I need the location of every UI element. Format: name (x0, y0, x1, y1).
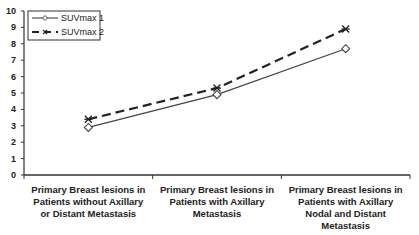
y-tick-label: 3 (11, 121, 16, 131)
series-2 (84, 26, 349, 123)
category-label-line: Patients with Axillary (281, 196, 411, 208)
y-tick-label: 10 (6, 6, 16, 16)
y-axis: 012345678910 (6, 6, 24, 180)
legend-label: SUVmax 2 (61, 27, 104, 37)
category-label-line: Patients with Axillary (152, 196, 282, 208)
y-tick-label: 5 (11, 88, 16, 98)
y-tick-label: 4 (11, 104, 16, 114)
legend-label: SUVmax 1 (61, 13, 104, 23)
y-tick-label: 2 (11, 137, 16, 147)
x-category-label: Primary Breast lesions inPatients withou… (23, 184, 153, 220)
y-tick-label: 7 (11, 55, 16, 65)
legend: SUVmax 1SUVmax 2 (28, 11, 104, 40)
y-tick-label: 1 (11, 154, 16, 164)
category-label-line: Primary Breast lesions in (23, 184, 153, 196)
x-category-label: Primary Breast lesions inPatients with A… (281, 184, 411, 232)
category-label-line: Metastasis (281, 220, 411, 232)
y-tick-label: 0 (11, 170, 16, 180)
y-tick-label: 8 (11, 39, 16, 49)
category-label-line: or Distant Metastasis (23, 208, 153, 220)
category-label-line: Primary Breast lesions in (281, 184, 411, 196)
y-tick-label: 9 (11, 22, 16, 32)
x-category-label: Primary Breast lesions inPatients with A… (152, 184, 282, 220)
category-label-line: Patients without Axillary (23, 196, 153, 208)
x-axis (24, 175, 410, 179)
star-marker (84, 116, 92, 123)
diamond-marker (342, 45, 350, 53)
diamond-marker (213, 91, 221, 99)
series-layer (84, 26, 349, 132)
category-label-line: Primary Breast lesions in (152, 184, 282, 196)
category-label-line: Metastasis (152, 208, 282, 220)
star-marker (342, 26, 350, 33)
category-label-line: Nodal and Distant (281, 208, 411, 220)
diamond-marker (84, 123, 92, 131)
y-tick-label: 6 (11, 72, 16, 82)
